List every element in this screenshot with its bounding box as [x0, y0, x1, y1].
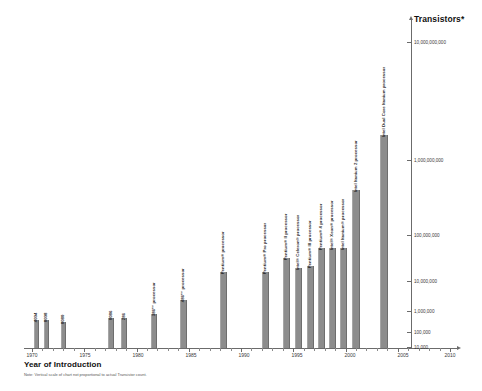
- bar-label: Pentium® III processor: [308, 220, 312, 268]
- x-axis-tick-label: 1970: [26, 352, 37, 358]
- bar: [283, 258, 290, 348]
- x-axis-tick: [429, 348, 430, 351]
- x-axis-tick: [262, 348, 263, 351]
- x-axis-tick: [440, 348, 441, 351]
- y-axis-tick-label: 100,000: [414, 330, 431, 335]
- y-axis-tick: [407, 347, 411, 348]
- x-axis-tick-label: 1985: [185, 352, 196, 358]
- y-axis-tick: [407, 311, 411, 312]
- bar: [121, 318, 127, 348]
- x-axis-tick: [272, 348, 273, 351]
- bar: [307, 266, 314, 348]
- y-axis-line: [411, 20, 412, 349]
- bar-label: 286: [121, 313, 125, 320]
- x-axis-tick-label: 1975: [79, 352, 90, 358]
- bar-label: 386™ processor: [152, 282, 156, 316]
- y-axis-tick-label: 10,000,000,000: [414, 40, 446, 45]
- bar-label: Pentium® processor: [221, 231, 225, 274]
- x-axis-tick: [116, 348, 117, 351]
- x-axis-tick: [178, 348, 179, 351]
- x-axis-tick-label: 1995: [291, 352, 302, 358]
- y-axis-tick: [407, 160, 411, 161]
- bar-label: Intel Itanium 2 processor: [353, 140, 357, 192]
- x-axis-tick-label: 2010: [444, 352, 455, 358]
- bar-label: 8086: [108, 311, 112, 321]
- x-axis-tick: [168, 348, 169, 351]
- x-axis-tick: [283, 348, 284, 351]
- x-axis-tick-label: 1980: [132, 352, 143, 358]
- bar: [340, 248, 347, 348]
- bar: [262, 272, 269, 348]
- bar: [329, 248, 336, 348]
- bar: [180, 300, 187, 348]
- bar-label: 486™ processor: [181, 268, 185, 302]
- x-axis-tick: [105, 348, 106, 351]
- bar: [61, 322, 66, 348]
- x-axis-tick: [231, 348, 232, 351]
- bar: [34, 320, 39, 348]
- bar-label: Intel Itanium® processor: [341, 199, 345, 251]
- bar: [380, 135, 388, 348]
- x-axis-tick: [356, 348, 357, 351]
- bar: [44, 320, 49, 348]
- x-axis-tick: [335, 348, 336, 351]
- y-axis-tick: [407, 281, 411, 282]
- x-axis-tick: [408, 348, 409, 351]
- y-axis-tick: [407, 332, 411, 333]
- x-axis-tick: [63, 348, 64, 351]
- bar: [220, 272, 227, 348]
- x-axis-tick: [251, 348, 252, 351]
- x-axis-tick: [220, 348, 221, 351]
- bar: [108, 318, 114, 348]
- x-axis-tick: [314, 348, 315, 351]
- bar-label: 8008: [44, 313, 48, 323]
- bar-label: Pentium® Pro processor: [263, 223, 267, 275]
- x-axis-title: Year of Introduction: [24, 360, 102, 369]
- x-axis-tick: [74, 348, 75, 351]
- bar: [352, 190, 360, 348]
- y-axis-tick-label: 10,000: [414, 345, 428, 350]
- x-axis-tick-label: 1990: [238, 352, 249, 358]
- x-axis-tick: [42, 348, 43, 351]
- y-axis-tick: [407, 235, 411, 236]
- transistor-count-chart: 4004800880808086286386™ processor486™ pr…: [0, 0, 482, 391]
- x-axis-tick: [126, 348, 127, 351]
- y-axis-arrow-icon: [409, 16, 413, 20]
- x-axis-tick: [377, 348, 378, 351]
- bar: [295, 268, 302, 348]
- y-axis-title: Transistors*: [414, 14, 464, 24]
- x-axis-tick: [147, 348, 148, 351]
- x-axis-tick: [199, 348, 200, 351]
- bar-label: Intel® Xeon® processor: [330, 200, 334, 250]
- bar-label: 4004: [34, 313, 38, 323]
- bar-label: Intel Dual Core Itanium processor: [382, 67, 386, 137]
- y-axis-tick-label: 1,000,000,000: [414, 158, 443, 163]
- x-axis-tick: [304, 348, 305, 351]
- x-axis-tick: [366, 348, 367, 351]
- y-axis-tick-label: 100,000,000: [414, 233, 440, 238]
- y-axis-tick-label: 10,000,000: [414, 279, 437, 284]
- bar: [151, 314, 157, 348]
- x-axis-tick-label: 2005: [397, 352, 408, 358]
- bar-label: Pentium® 4 processor: [319, 204, 323, 251]
- x-axis-tick-label: 2000: [344, 352, 355, 358]
- x-axis-tick: [387, 348, 388, 351]
- x-axis-tick: [210, 348, 211, 351]
- y-axis-tick: [407, 42, 411, 43]
- bar-label: Pentium® II processor: [284, 214, 288, 261]
- x-axis-tick: [157, 348, 158, 351]
- x-axis-tick: [95, 348, 96, 351]
- bar: [318, 248, 325, 348]
- bar-label: Intel® Celeron® processor: [296, 215, 300, 271]
- chart-footnote: Note: Vertical scale of chart not propor…: [24, 372, 147, 377]
- x-axis-arrow-icon: [457, 346, 461, 350]
- x-axis-tick: [325, 348, 326, 351]
- bar-label: 8080: [61, 315, 65, 325]
- x-axis-tick: [53, 348, 54, 351]
- y-axis-tick-label: 1,000,000: [414, 309, 434, 314]
